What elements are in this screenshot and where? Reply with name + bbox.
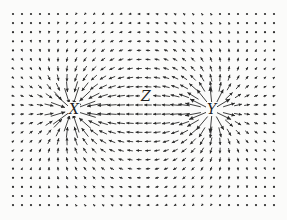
- field-arrow: [12, 195, 14, 197]
- field-arrow: [153, 131, 160, 134]
- field-arrow: [199, 82, 205, 91]
- field-arrow: [20, 168, 22, 171]
- field-arrow: [264, 195, 266, 197]
- field-arrow: [110, 177, 113, 179]
- field-arrow: [273, 204, 275, 206]
- field-arrow: [210, 176, 212, 179]
- field-arrow: [90, 129, 98, 135]
- field-arrow: [219, 22, 221, 25]
- field-arrow: [84, 49, 87, 52]
- field-arrow: [246, 22, 248, 24]
- field-arrow: [75, 195, 77, 198]
- field-arrow: [120, 195, 123, 197]
- field-arrow: [75, 12, 77, 15]
- field-arrow: [56, 83, 60, 91]
- field-arrow: [273, 31, 275, 33]
- field-arrow: [119, 158, 124, 161]
- field-arrow: [39, 195, 41, 197]
- field-arrow: [162, 122, 170, 125]
- field-arrow: [109, 140, 115, 143]
- field-arrow: [89, 93, 100, 98]
- field-arrow: [20, 76, 23, 79]
- field-arrow: [272, 68, 275, 71]
- field-arrow: [227, 129, 231, 136]
- field-arrow: [244, 104, 250, 107]
- field-arrow: [237, 204, 239, 206]
- field-arrow: [57, 138, 60, 144]
- field-arrow: [164, 167, 168, 169]
- field-arrow: [12, 168, 14, 170]
- field-arrow: [107, 104, 116, 107]
- field-arrow: [66, 21, 68, 24]
- field-arrow: [147, 204, 150, 206]
- field-arrow: [165, 194, 168, 196]
- field-arrow: [174, 13, 177, 15]
- field-arrow: [136, 76, 142, 79]
- field-arrow: [191, 58, 194, 62]
- field-arrow: [128, 177, 132, 180]
- field-arrow: [264, 31, 266, 33]
- field-arrow: [254, 131, 257, 134]
- field-arrow: [263, 104, 266, 107]
- field-arrow: [209, 74, 212, 82]
- field-arrow: [135, 113, 143, 116]
- field-arrow: [93, 177, 96, 180]
- field-arrow: [225, 92, 232, 99]
- field-arrow: [219, 13, 221, 15]
- field-arrow: [29, 149, 31, 152]
- field-arrow: [173, 167, 177, 169]
- field-arrow: [185, 113, 201, 117]
- field-arrow: [109, 149, 114, 152]
- field-arrow: [66, 57, 69, 62]
- field-arrow: [75, 49, 77, 53]
- field-arrow: [154, 67, 160, 70]
- field-arrow: [246, 176, 248, 179]
- field-arrow: [254, 67, 256, 70]
- field-arrow: [210, 185, 212, 188]
- field-arrow: [210, 22, 212, 25]
- field-arrow: [174, 31, 177, 33]
- field-arrow: [117, 113, 125, 116]
- field-arrow: [20, 158, 22, 161]
- field-arrow: [45, 112, 54, 115]
- field-arrow: [255, 195, 257, 197]
- field-arrow: [170, 103, 180, 106]
- field-arrow: [154, 85, 161, 88]
- field-arrow: [192, 185, 195, 188]
- field-arrow: [155, 58, 160, 61]
- field-arrow: [155, 158, 160, 161]
- field-arrow: [48, 167, 51, 170]
- field-arrow: [38, 85, 42, 89]
- field-arrow: [129, 204, 132, 206]
- field-arrow: [216, 117, 223, 130]
- field-arrow: [201, 31, 204, 34]
- field-arrow: [246, 167, 248, 170]
- field-arrow: [75, 148, 78, 154]
- field-arrow: [228, 148, 231, 153]
- field-arrow: [136, 140, 142, 143]
- field-arrow: [11, 85, 14, 87]
- field-arrow: [84, 157, 87, 161]
- field-arrow: [109, 67, 114, 70]
- label-x-sink: X: [68, 102, 80, 116]
- field-arrow: [201, 157, 204, 161]
- field-arrow: [92, 148, 97, 152]
- field-arrow: [38, 131, 42, 134]
- field-arrow: [170, 113, 180, 116]
- field-arrow: [254, 104, 258, 107]
- field-arrow: [110, 158, 115, 160]
- field-arrow: [154, 76, 160, 79]
- field-arrow: [127, 76, 133, 79]
- field-arrow: [156, 13, 159, 15]
- field-arrow: [173, 58, 177, 60]
- field-arrow: [47, 84, 51, 89]
- field-arrow: [29, 85, 32, 88]
- field-arrow: [37, 122, 42, 125]
- field-arrow: [39, 149, 41, 153]
- field-arrow: [93, 195, 96, 198]
- field-arrow: [83, 148, 87, 153]
- field-arrow: [263, 167, 265, 170]
- field-arrow: [92, 58, 96, 62]
- field-arrow: [163, 149, 169, 152]
- field-arrow: [129, 13, 132, 15]
